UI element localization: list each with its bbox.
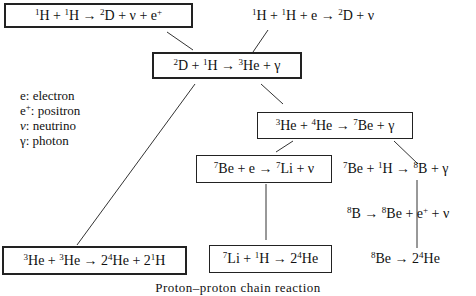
- reaction-b8-decay: 8B → 8Be + e+ + ν: [347, 206, 449, 222]
- connector-pp-to-d: [167, 32, 193, 50]
- connector-be7-to-be7e: [276, 141, 293, 152]
- reaction-box-he3-he3: 3He + 3He → 24He + 21H: [2, 246, 187, 275]
- legend-item-neutrino: ν: neutrino: [20, 118, 80, 133]
- legend-item-positron: e+: positron: [20, 103, 80, 118]
- reaction-be7-p: 7Be + 1H → 8B + γ: [343, 161, 449, 177]
- reaction-pp: 1H + 1H → 2D + ν + e+: [35, 8, 162, 24]
- legend: e: electron e+: positron ν: neutrino γ: …: [20, 88, 80, 148]
- reaction-box-li7-p: 7Li + 1H → 24He: [209, 245, 332, 273]
- reaction-li7-p: 7Li + 1H → 24He: [223, 251, 318, 267]
- reaction-box-pp: 1H + 1H → 2D + ν + e+: [4, 3, 193, 28]
- reaction-he3-he4: 3He + 4He → 7Be + γ: [276, 118, 395, 134]
- reaction-box-be7-e: 7Be + e → 7Li + ν: [196, 155, 332, 183]
- connector-d-to-he3he3: [77, 84, 195, 245]
- legend-item-photon: γ: photon: [20, 133, 80, 148]
- reaction-he3-he3: 3He + 3He → 24He + 21H: [24, 253, 166, 269]
- legend-item-electron: e: electron: [20, 88, 80, 103]
- connector-d-to-he3he4: [261, 84, 283, 104]
- reaction-box-he3-he4: 3He + 4He → 7Be + γ: [257, 112, 413, 139]
- reaction-be7-e: 7Be + e → 7Li + ν: [214, 161, 314, 177]
- reaction-be8-decay: 8Be → 24He: [371, 251, 440, 267]
- connector-pep-to-d: [253, 30, 268, 52]
- reaction-d-capture: 2D + 1H → 3He + γ: [173, 58, 280, 74]
- figure-caption: Proton–proton chain reaction: [0, 280, 476, 296]
- reaction-box-d-capture: 2D + 1H → 3He + γ: [152, 52, 302, 79]
- reaction-pep: 1H + 1H + e → 2D + ν: [252, 8, 374, 24]
